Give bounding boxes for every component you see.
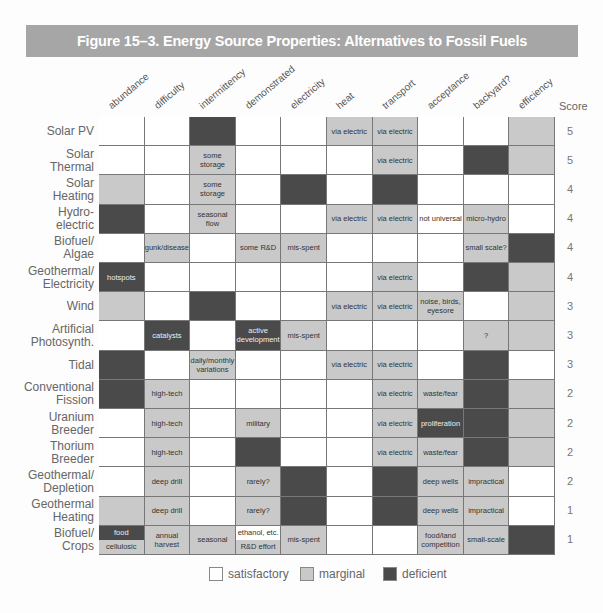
grid-cell [99,175,145,204]
grid-cell: high-tech [145,438,191,467]
grid-cell [509,497,555,526]
grid-cell [236,380,282,409]
grid-cell [327,467,373,496]
column-header-abundance: abundance [106,71,151,111]
row-label: Wind [0,292,94,321]
row-score: 2 [563,387,577,399]
grid-cell [145,175,191,204]
grid-cell [236,205,282,234]
legend-swatch [300,567,314,581]
column-header-backyard: backyard? [471,73,513,111]
grid-cell [99,321,145,350]
row-label: ThoriumBreeder [0,438,94,467]
column-header-efficiency: efficiency [516,76,555,111]
grid-cell [327,146,373,175]
grid-cell [373,175,419,204]
legend-item-marginal: marginal [300,567,365,581]
grid-cell [509,438,555,467]
row-label: SolarThermal [0,146,94,175]
grid-cell [509,380,555,409]
grid-cell-half: R&D effort [236,540,281,554]
figure-title-bar: Figure 15–3. Energy Source Properties: A… [26,25,578,57]
grid-cell [236,263,282,292]
grid-cell [509,263,555,292]
grid-cell [145,351,191,380]
column-header-acceptance: acceptance [425,70,471,111]
grid-cell [281,438,327,467]
row-label: ArtificialPhotosynth. [0,321,94,350]
grid-cell [145,292,191,321]
grid-cell [190,380,236,409]
grid-cell: high-tech [145,380,191,409]
grid-cell: impractical [464,497,510,526]
grid-cell: deep drill [145,497,191,526]
grid-cell-half: cellulosic [99,540,144,554]
property-grid: via electricvia electricsome storagevia … [99,117,555,555]
grid-cell [99,438,145,467]
grid-cell [190,263,236,292]
grid-cell [509,292,555,321]
grid-cell: catalysts [145,321,191,350]
grid-cell [99,146,145,175]
grid-cell [281,292,327,321]
grid-cell: via electric [373,263,419,292]
grid-cell [281,117,327,146]
grid-cell: via electric [373,292,419,321]
grid-cell [418,351,464,380]
grid-cell [509,467,555,496]
grid-cell [281,205,327,234]
grid-cell: via electric [373,146,419,175]
grid-cell [327,321,373,350]
grid-cell: some storage [190,146,236,175]
grid-cell [509,175,555,204]
row-label: ConventionalFission [0,380,94,409]
grid-cell [190,234,236,263]
grid-cell: seasonal flow [190,205,236,234]
grid-cell [99,467,145,496]
row-score: 4 [563,183,577,195]
row-score: 5 [563,154,577,166]
row-label: UraniumBreeder [0,409,94,438]
grid-cell: rarely? [236,497,282,526]
row-label: SolarHeating [0,175,94,204]
row-score: 3 [563,329,577,341]
grid-cell [99,351,145,380]
row-label: Geothermal/Depletion [0,467,94,496]
grid-cell [281,467,327,496]
grid-cell: some storage [190,175,236,204]
grid-cell [99,117,145,146]
grid-cell [99,292,145,321]
grid-cell [509,205,555,234]
grid-cell [373,234,419,263]
grid-cell [327,380,373,409]
grid-cell [464,351,510,380]
grid-cell: ethanol, etc.R&D effort [236,526,282,555]
grid-cell [418,234,464,263]
grid-cell: rarely? [236,467,282,496]
grid-cell [373,497,419,526]
grid-cell: deep wells [418,467,464,496]
grid-cell: via electric [373,205,419,234]
legend-swatch [383,567,397,581]
row-label: GeothermalHeating [0,497,94,526]
grid-cell: military [236,409,282,438]
grid-cell: waste/fear [418,438,464,467]
grid-cell: mis-spent [281,321,327,350]
grid-cell: food/land competition [418,526,464,555]
grid-cell: foodcellulosic [99,526,145,555]
grid-cell [509,117,555,146]
grid-cell [190,117,236,146]
grid-cell [373,321,419,350]
grid-cell [190,467,236,496]
grid-cell: annual harvest [145,526,191,555]
legend-item-satisfactory: satisfactory [209,567,289,581]
grid-cell [327,438,373,467]
grid-cell: via electric [327,292,373,321]
grid-cell [464,380,510,409]
grid-cell [99,234,145,263]
grid-cell [418,117,464,146]
grid-cell: via electric [327,351,373,380]
grid-cell: daily/monthly variations [190,351,236,380]
grid-cell [464,175,510,204]
grid-cell [236,292,282,321]
